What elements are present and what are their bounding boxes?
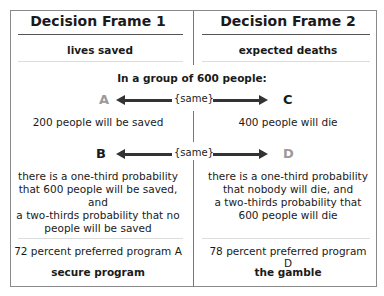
frame2-title-rule xyxy=(202,34,370,35)
arrow-left-icon xyxy=(124,153,172,156)
option-letter-b: B xyxy=(96,146,106,161)
same-label-top: {same} xyxy=(174,93,214,104)
frame1-subtitle: lives saved xyxy=(16,44,184,56)
group-heading: In a group of 600 people: xyxy=(0,72,384,84)
option-letter-c: C xyxy=(283,92,293,107)
same-label-bottom: {same} xyxy=(174,147,214,158)
option-d-line: 600 people will die xyxy=(204,209,372,222)
frame1-title: Decision Frame 1 xyxy=(14,13,182,29)
arrow-right-icon xyxy=(213,153,260,156)
frame2-subtitle-rule xyxy=(202,61,370,62)
arrow-left-icon xyxy=(124,99,172,102)
frame2-footer-rule xyxy=(202,238,370,239)
option-letter-d: D xyxy=(283,146,294,161)
center-divider-mid xyxy=(193,111,194,142)
option-b-line: people will be saved xyxy=(14,222,182,235)
frame1-footer-rule xyxy=(18,238,183,239)
option-d-line: there is a one-third probability xyxy=(204,170,372,183)
center-divider-top xyxy=(193,11,194,65)
frame1-subtitle-rule xyxy=(18,61,183,62)
option-d-line: that nobody will die, and xyxy=(204,183,372,196)
option-letter-a: A xyxy=(99,92,109,107)
frame2-subtitle: expected deaths xyxy=(204,44,372,56)
option-d-text: there is a one-third probability that no… xyxy=(204,170,372,222)
option-b-line: that 600 people will be saved, and xyxy=(14,183,182,209)
frame1-result: 72 percent preferred program A xyxy=(14,245,182,257)
option-b-line: a two-thirds probability that no xyxy=(14,209,182,222)
frame2-title: Decision Frame 2 xyxy=(204,13,372,29)
option-d-line: a two-thirds probability that xyxy=(204,196,372,209)
option-c-text: 400 people will die xyxy=(204,116,372,129)
center-divider-bottom xyxy=(193,160,194,287)
option-b-line: there is a one-third probability xyxy=(14,170,182,183)
frame2-label: the gamble xyxy=(204,266,372,278)
arrow-right-icon xyxy=(213,99,260,102)
frame1-label: secure program xyxy=(14,266,182,278)
option-a-text: 200 people will be saved xyxy=(14,116,182,129)
frame1-title-rule xyxy=(18,34,183,35)
option-b-text: there is a one-third probability that 60… xyxy=(14,170,182,235)
